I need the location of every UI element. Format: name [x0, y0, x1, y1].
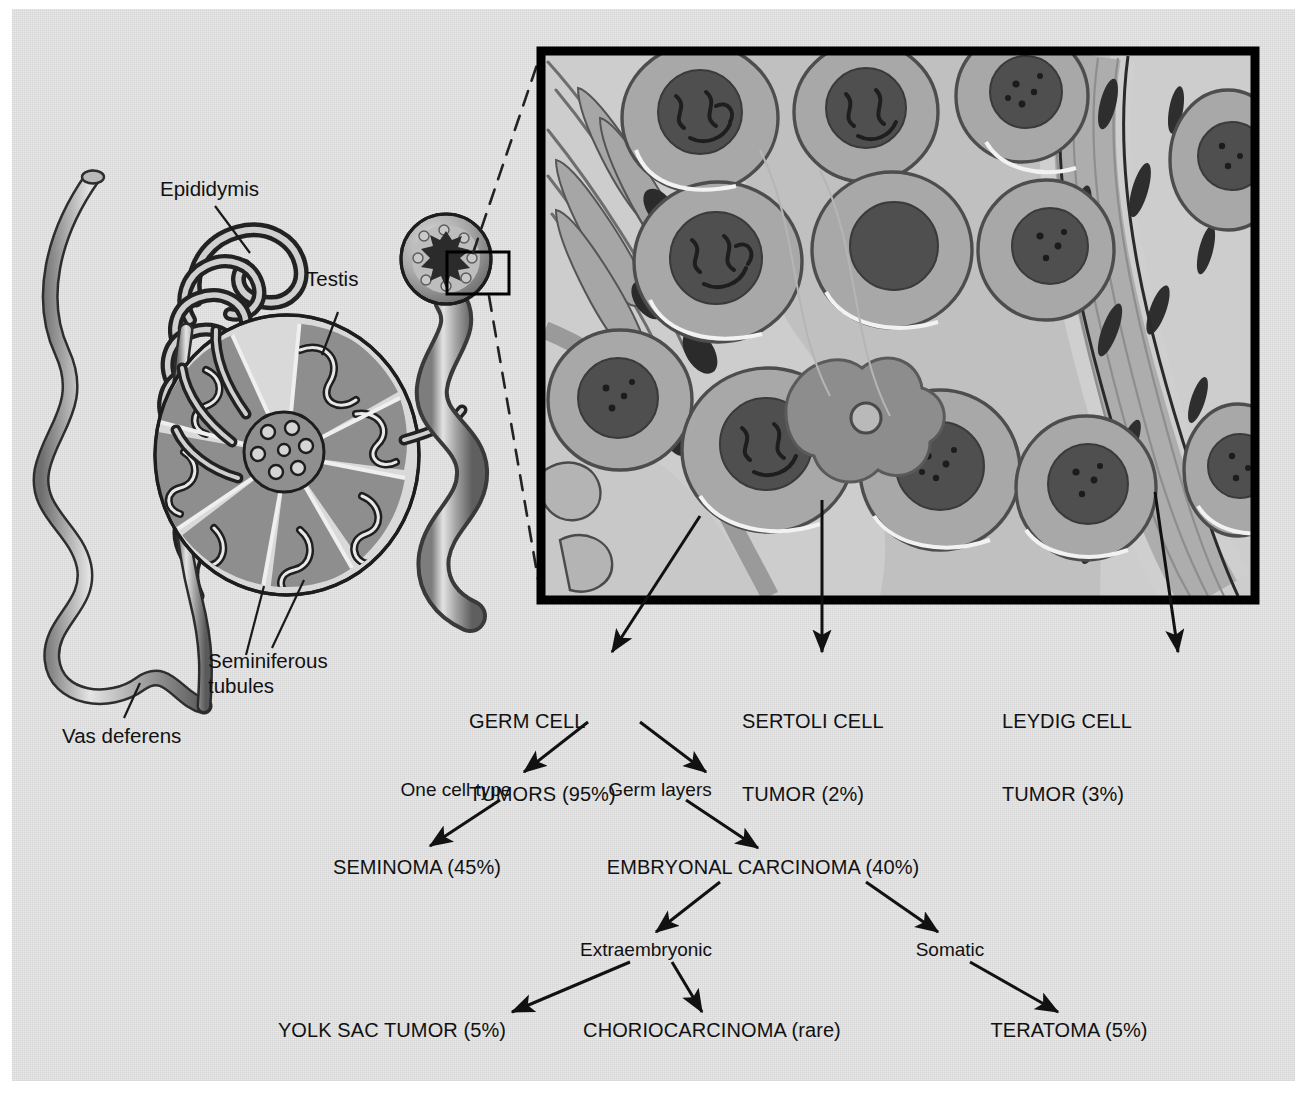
- branch-germ-layers: Germ layers: [608, 778, 711, 801]
- testis-illustration: [153, 315, 462, 596]
- node-germ-cell-tumors: GERM CELL TUMORS (95%): [469, 660, 616, 855]
- node-embryonal-carcinoma: EMBRYONAL CARCINOMA (40%): [607, 855, 920, 879]
- node-sertoli-cell-tumor-line1: SERTOLI CELL: [742, 709, 884, 733]
- label-vas-deferens: Vas deferens: [62, 723, 181, 748]
- node-sertoli-cell-tumor-line2: TUMOR (2%): [742, 782, 884, 806]
- histology-inset: [540, 30, 1292, 600]
- arrow-to-yolk-sac-tumor: [512, 962, 630, 1012]
- node-leydig-cell-tumor-line2: TUMOR (3%): [1002, 782, 1132, 806]
- label-testis: Testis: [306, 266, 358, 291]
- arrow-to-germ-layers: [640, 722, 706, 772]
- branch-somatic: Somatic: [916, 938, 985, 961]
- node-leydig-cell-tumor: LEYDIG CELL TUMOR (3%): [1002, 660, 1132, 855]
- node-germ-cell-tumors-line1: GERM CELL: [469, 709, 616, 733]
- arrow-to-teratoma: [970, 962, 1058, 1012]
- node-choriocarcinoma: CHORIOCARCINOMA (rare): [583, 1018, 841, 1042]
- seminiferous-tubule-cross-section: [401, 214, 509, 616]
- node-yolk-sac-tumor: YOLK SAC TUMOR (5%): [278, 1018, 506, 1042]
- arrow-to-somatic: [866, 882, 938, 932]
- node-seminoma: SEMINOMA (45%): [333, 855, 501, 879]
- branch-extraembryonic: Extraembryonic: [580, 938, 712, 961]
- node-leydig-cell-tumor-line1: LEYDIG CELL: [1002, 709, 1132, 733]
- arrow-to-extraembryonic: [656, 882, 720, 932]
- label-epididymis: Epididymis: [160, 176, 259, 201]
- figure-root: Epididymis Testis Seminiferous tubules V…: [0, 0, 1306, 1101]
- arrow-to-choriocarcinoma: [672, 962, 702, 1012]
- node-sertoli-cell-tumor: SERTOLI CELL TUMOR (2%): [742, 660, 884, 855]
- label-seminiferous-tubules: Seminiferous tubules: [208, 648, 328, 698]
- diagram-svg: [0, 0, 1306, 1101]
- branch-one-cell-type: One cell type: [401, 778, 512, 801]
- inset-leader-lines: [473, 53, 541, 596]
- node-teratoma: TERATOMA (5%): [990, 1018, 1147, 1042]
